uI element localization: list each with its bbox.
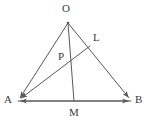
point-label-B: B bbox=[135, 94, 142, 105]
point-label-M: M bbox=[69, 107, 79, 118]
vertex-dots-group bbox=[67, 22, 70, 25]
geometry-figure: O A B M L P bbox=[0, 0, 148, 123]
segments-group bbox=[18, 23, 131, 101]
point-label-L: L bbox=[93, 32, 100, 43]
segment-AL bbox=[21, 46, 90, 98]
point-label-A: A bbox=[4, 94, 12, 105]
point-label-O: O bbox=[62, 3, 70, 14]
vertex-dot-O bbox=[67, 22, 70, 25]
geometry-canvas bbox=[0, 0, 148, 123]
point-label-P: P bbox=[58, 51, 64, 62]
